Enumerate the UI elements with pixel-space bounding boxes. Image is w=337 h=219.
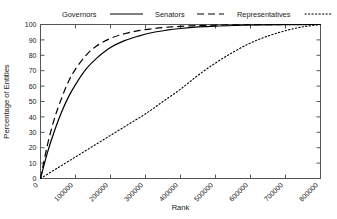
x-tick-label: 100000 xyxy=(53,181,75,203)
x-tick-label: 700000 xyxy=(263,181,285,203)
legend-label: Senators xyxy=(155,10,185,19)
y-tick-label: 80 xyxy=(29,52,37,59)
legend-item-senators: Senators xyxy=(155,10,224,19)
x-tick-label: 200000 xyxy=(88,181,110,203)
series-line-senators xyxy=(41,24,321,178)
x-tick-label: 300000 xyxy=(123,181,145,203)
y-tick-label: 100 xyxy=(25,21,37,28)
y-axis-title: Percentage of Entities xyxy=(2,64,11,138)
y-tick-label: 40 xyxy=(29,114,37,121)
x-tick-label: 500000 xyxy=(193,181,215,203)
x-tick-label: 600000 xyxy=(228,181,250,203)
x-tick-label: 0 xyxy=(31,181,39,189)
chart-figure: 0100000200000300000400000500000600000700… xyxy=(0,0,337,219)
y-tick-label: 20 xyxy=(29,144,37,151)
series-line-representatives xyxy=(41,25,321,179)
legend-label: Governors xyxy=(62,10,97,19)
x-tick-label: 400000 xyxy=(158,181,180,203)
x-tick-label: 800000 xyxy=(298,181,320,203)
x-axis-title: Rank xyxy=(172,203,190,212)
y-tick-label: 10 xyxy=(29,160,37,167)
line-chart: 0100000200000300000400000500000600000700… xyxy=(0,0,337,219)
legend-item-governors: Governors xyxy=(62,10,143,19)
plot-frame xyxy=(41,25,321,179)
y-tick-label: 60 xyxy=(29,83,37,90)
y-tick-label: 90 xyxy=(29,37,37,44)
y-tick-label: 30 xyxy=(29,129,37,136)
y-tick-label: 0 xyxy=(33,175,37,182)
y-tick-label: 50 xyxy=(29,98,37,105)
series-line-governors xyxy=(41,25,321,179)
y-tick-label: 70 xyxy=(29,67,37,74)
legend-label: Representatives xyxy=(237,10,291,19)
legend-item-representatives: Representatives xyxy=(237,10,332,19)
